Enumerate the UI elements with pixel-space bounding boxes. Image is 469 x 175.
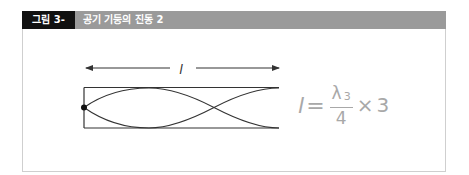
formula-lhs: l bbox=[298, 93, 304, 118]
standing-wave bbox=[84, 88, 279, 128]
formula: l = λ3 4 × 3 bbox=[298, 80, 389, 130]
fraction-numerator: λ3 bbox=[330, 83, 353, 108]
lambda-symbol: λ bbox=[332, 83, 342, 103]
lambda-subscript: 3 bbox=[344, 90, 351, 103]
node-dot bbox=[81, 105, 87, 111]
air-column-diagram: l bbox=[0, 0, 469, 175]
fraction: λ3 4 bbox=[330, 83, 353, 128]
length-label: l bbox=[179, 62, 183, 77]
formula-equals: = bbox=[306, 93, 324, 118]
formula-multiplier: 3 bbox=[376, 93, 389, 117]
times-sign: × bbox=[357, 93, 374, 117]
fraction-denominator: 4 bbox=[336, 108, 347, 128]
